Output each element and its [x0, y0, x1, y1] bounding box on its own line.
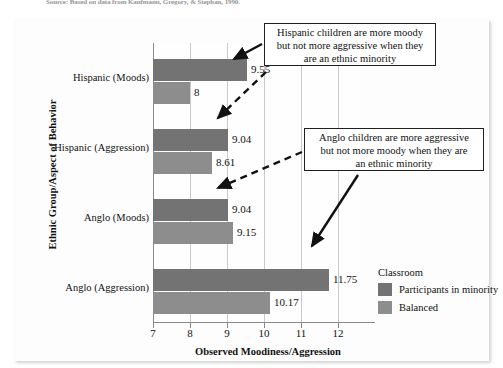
y-label-hispanic-aggression: Hispanic (Aggression) [0, 142, 149, 153]
bar-anglo-aggression-balanced [153, 292, 270, 314]
y-axis-category-labels: Hispanic (Moods) Hispanic (Aggression) A… [0, 19, 149, 361]
legend-label-minority: Participants in minority [399, 284, 498, 295]
annotation-anglo-line-2: but not more moody when they are [310, 145, 478, 158]
bar-value-anglo-aggression-balanced: 10.17 [274, 296, 299, 308]
x-tick-label-11: 11 [289, 327, 313, 339]
x-axis-title: Observed Moodiness/Aggression [153, 346, 383, 357]
bar-hispanic-aggression-minority [153, 129, 228, 151]
bar-anglo-aggression-minority [153, 269, 329, 291]
x-tick-label-12: 12 [326, 327, 350, 339]
legend-label-balanced: Balanced [399, 302, 438, 313]
legend-swatch-balanced [378, 301, 392, 314]
annotation-callout-anglo: Anglo children are more aggressive but n… [304, 128, 484, 171]
figure-panel: Ethnic Group/Aspect of Behavior Hispanic… [14, 19, 489, 361]
bar-value-hispanic-aggression-balanced: 8.61 [216, 156, 235, 168]
annotation-anglo-line-3: an ethnic minority [310, 158, 478, 171]
bar-anglo-moods-minority [153, 199, 228, 221]
y-label-anglo-aggression: Anglo (Aggression) [0, 282, 149, 293]
annotation-hispanic-line-2: but not more aggressive when they [270, 40, 430, 53]
annotation-callout-hispanic: Hispanic children are more moody but not… [264, 23, 436, 66]
annotation-anglo-line-1: Anglo children are more aggressive [310, 132, 478, 145]
bar-value-hispanic-aggression-minority: 9.04 [232, 133, 251, 145]
bar-value-anglo-moods-balanced: 9.15 [237, 226, 256, 238]
x-tick-label-8: 8 [178, 327, 202, 339]
x-tick-label-7: 7 [141, 327, 165, 339]
legend-item-minority: Participants in minority [378, 283, 503, 296]
bar-hispanic-aggression-balanced [153, 152, 212, 174]
annotation-hispanic-line-3: are an ethnic minority [270, 53, 430, 66]
x-tick-label-9: 9 [215, 327, 239, 339]
legend-swatch-minority [378, 283, 392, 296]
y-label-anglo-moods: Anglo (Moods) [0, 212, 149, 223]
x-tick-label-10: 10 [252, 327, 276, 339]
bar-value-anglo-aggression-minority: 11.75 [333, 273, 357, 285]
annotation-hispanic-line-1: Hispanic children are more moody [270, 27, 430, 40]
bar-value-hispanic-moods-balanced: 8 [194, 86, 200, 98]
bar-value-anglo-moods-minority: 9.04 [232, 203, 251, 215]
bar-hispanic-moods-balanced [153, 82, 190, 104]
y-label-hispanic-moods: Hispanic (Moods) [0, 72, 149, 83]
legend-item-balanced: Balanced [378, 301, 503, 314]
source-caption: Source: Based on data from Kaufmann, Gre… [46, 0, 346, 7]
bar-hispanic-moods-minority [153, 59, 247, 81]
legend-title: Classroom [378, 267, 503, 278]
bar-anglo-moods-balanced [153, 222, 233, 244]
legend: Classroom Participants in minority Balan… [378, 267, 503, 319]
